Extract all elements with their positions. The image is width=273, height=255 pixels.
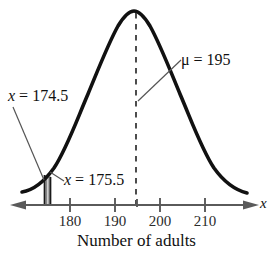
normal-distribution-figure: μ = 195 x = 174.5 x = 175.5 x 180 190 20…	[0, 0, 273, 255]
mean-annotation-label: μ = 195	[181, 52, 231, 68]
leader-line-lower-bound	[13, 107, 44, 180]
tick-label-200: 200	[149, 214, 172, 229]
tick-label-180: 180	[59, 214, 82, 229]
upper-bound-annotation-label: x = 175.5	[64, 172, 124, 188]
tick-label-190: 190	[104, 214, 127, 229]
lower-bound-annotation-label: x = 174.5	[8, 88, 68, 104]
x-axis-caption: Number of adults	[0, 232, 273, 249]
figure-canvas	[0, 0, 273, 255]
leader-line-upper-bound	[50, 172, 64, 181]
tick-label-210: 210	[194, 214, 217, 229]
x-axis-variable-label: x	[260, 196, 267, 211]
